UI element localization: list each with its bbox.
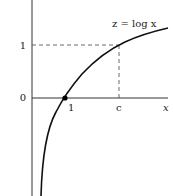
log-chart: z = log x 1 0 1 c x [0, 0, 173, 196]
point-one-zero [62, 95, 67, 100]
y-tick-one: 1 [20, 40, 26, 51]
log-curve [41, 28, 168, 196]
curve-label: z = log x [112, 18, 157, 29]
x-tick-one: 1 [68, 102, 74, 113]
y-tick-zero: 0 [20, 92, 26, 103]
x-tick-c: c [116, 102, 122, 113]
x-axis-label: x [163, 102, 169, 113]
